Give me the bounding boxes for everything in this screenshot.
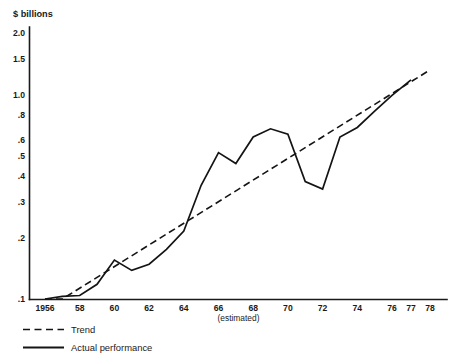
trend-series-line xyxy=(45,70,430,299)
y-axis-tick-label: 1.0 xyxy=(13,90,25,100)
x-axis-tick-label: 74 xyxy=(353,303,363,313)
x-axis-tick-label: 62 xyxy=(144,303,154,313)
x-axis-tick-label-group: 1956586062646668707274767778 xyxy=(35,303,435,313)
y-axis-tick-label-group: 2.01.51.0.8.6.5.4.3.2.1 xyxy=(13,28,25,304)
y-axis-tick-label: .2 xyxy=(18,233,25,243)
y-axis-tick-label: .6 xyxy=(18,135,25,145)
y-axis-tick-label: .3 xyxy=(18,197,25,207)
estimated-annotation: (estimated) xyxy=(218,313,260,323)
y-axis-tick-label: .4 xyxy=(18,171,25,181)
legend-label-trend: Trend xyxy=(71,324,95,335)
y-axis-tick-label: .1 xyxy=(18,294,25,304)
x-axis-tick-label: 68 xyxy=(248,303,258,313)
x-axis-tick-label: 77 xyxy=(406,303,416,313)
x-axis-tick-label: 60 xyxy=(110,303,120,313)
x-axis-tick-label: 1956 xyxy=(35,303,54,313)
x-axis-tick-label: 70 xyxy=(283,303,293,313)
x-axis-tick-label: 58 xyxy=(75,303,85,313)
actual-performance-series-line xyxy=(45,80,411,299)
y-axis-tick-label: .5 xyxy=(18,151,25,161)
y-axis-tick-label: 2.0 xyxy=(13,28,25,38)
chart-legend: Trend Actual performance xyxy=(23,324,152,353)
legend-label-actual-performance: Actual performance xyxy=(71,342,152,353)
x-axis-tick-label: 64 xyxy=(179,303,189,313)
y-axis-unit-label: $ billions xyxy=(13,9,53,19)
x-axis-tick-label: 76 xyxy=(387,303,397,313)
y-axis-tick-label: .8 xyxy=(18,110,25,120)
x-axis-tick-label: 78 xyxy=(425,303,435,313)
line-chart-figure: $ billions 2.01.51.0.8.6.5.4.3.2.1 19565… xyxy=(0,0,455,358)
x-axis-tick-label: 72 xyxy=(318,303,328,313)
chart-container: $ billions 2.01.51.0.8.6.5.4.3.2.1 19565… xyxy=(0,0,455,358)
y-axis-tick-label: 1.5 xyxy=(13,54,25,64)
x-axis-tick-label: 66 xyxy=(214,303,224,313)
